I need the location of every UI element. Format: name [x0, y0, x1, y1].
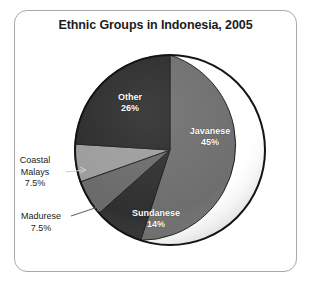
- slice-label-javanese: Javanese 45%: [178, 126, 242, 148]
- slice-label-madurese-pct: 7.5%: [31, 223, 52, 233]
- slice-label-other-name: Other: [118, 92, 142, 102]
- slice-label-madurese-name: Madurese: [21, 211, 61, 221]
- chart-figure: Ethnic Groups in Indonesia, 2005: [0, 0, 311, 286]
- slice-label-coastal-malays-line2: Malays: [21, 167, 50, 177]
- slice-label-javanese-pct: 45%: [178, 137, 242, 148]
- slice-label-madurese: Madurese 7.5%: [10, 211, 72, 234]
- slice-label-coastal-malays-pct: 7.5%: [25, 178, 46, 188]
- slice-label-sundanese-pct: 14%: [118, 219, 194, 230]
- slice-label-sundanese-name: Sundanese: [132, 208, 180, 218]
- slice-label-coastal-malays: Coastal Malays 7.5%: [4, 155, 66, 190]
- pie-chart-svg: [0, 0, 311, 286]
- slice-label-sundanese: Sundanese 14%: [118, 208, 194, 230]
- slice-label-other: Other 26%: [98, 92, 162, 114]
- slice-label-other-pct: 26%: [98, 103, 162, 114]
- slice-label-coastal-malays-line1: Coastal: [20, 155, 51, 165]
- pie-chart-area: Javanese 45% Other 26% Sundanese 14% Coa…: [0, 0, 311, 286]
- slice-label-javanese-name: Javanese: [190, 126, 231, 136]
